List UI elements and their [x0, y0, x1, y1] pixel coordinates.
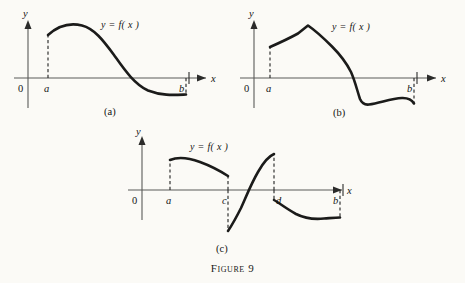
function-curve	[48, 24, 186, 94]
function-curve-segment-2	[228, 154, 274, 231]
tick-label-b: b	[333, 195, 338, 206]
tick-label-a: a	[44, 83, 49, 94]
y-axis-label: y	[22, 8, 28, 19]
graph-panel-b: 0 a b x y y = f( x )	[228, 0, 465, 130]
tick-label-a: a	[266, 83, 271, 94]
x-axis-arrow-icon	[197, 75, 206, 82]
function-label: y = f( x )	[331, 21, 370, 33]
y-axis-label: y	[248, 8, 254, 19]
subfigure-label-b: (b)	[333, 107, 345, 118]
figure-caption: Figure 9	[0, 262, 465, 274]
figure-container: 0 a b x y y = f( x ) (a) 0 a b x y y = f…	[0, 0, 465, 283]
y-axis-arrow-icon	[251, 20, 258, 29]
function-curve	[270, 26, 414, 105]
x-axis-label: x	[210, 73, 216, 84]
y-axis-arrow-icon	[25, 20, 32, 29]
graph-panel-a: 0 a b x y y = f( x )	[0, 0, 233, 130]
graph-panel-c: 0 a c d b x y y = f( x )	[112, 128, 362, 248]
subfigure-label-a: (a)	[104, 106, 116, 117]
origin-label-a: 0	[18, 83, 23, 94]
function-label: y = f( x )	[189, 141, 228, 153]
tick-label-b: b	[179, 83, 184, 94]
origin-label-b: 0	[244, 83, 249, 94]
x-axis-arrow-icon	[333, 187, 342, 194]
function-curve-segment-1	[170, 158, 228, 176]
origin-label-c: 0	[132, 195, 137, 206]
function-curve-segment-3	[274, 200, 340, 219]
tick-label-b: b	[407, 83, 412, 94]
subfigure-label-c: (c)	[216, 243, 228, 254]
function-label: y = f( x )	[100, 19, 139, 31]
x-axis-label: x	[346, 185, 352, 196]
tick-label-a: a	[166, 195, 171, 206]
x-axis-label: x	[440, 73, 446, 84]
tick-label-c: c	[222, 195, 227, 206]
y-axis-label: y	[135, 126, 141, 137]
x-axis-arrow-icon	[427, 75, 436, 82]
tick-label-d: d	[276, 195, 282, 206]
y-axis-arrow-icon	[139, 136, 146, 145]
